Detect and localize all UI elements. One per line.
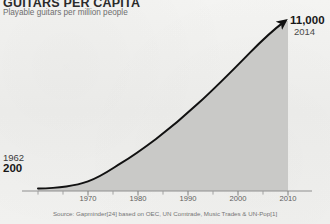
end-value-label: 11,000 [290,14,325,26]
x-tick-label-2010: 2010 [280,194,297,203]
start-value-label: 200 [3,162,22,174]
end-year-label: 2014 [294,26,315,37]
chart-plot-area [0,0,330,224]
chart-figure: GUITARS PER CAPITA Playable guitars per … [0,0,330,224]
area-fill [38,21,288,191]
x-tick-label-2000: 2000 [230,194,247,203]
x-tick-label-1970: 1970 [80,194,97,203]
x-tick-label-1990: 1990 [180,194,197,203]
x-tick-label-1980: 1980 [130,194,147,203]
source-note: Source: Gapminder[24] based on OEC, UN C… [0,210,330,217]
